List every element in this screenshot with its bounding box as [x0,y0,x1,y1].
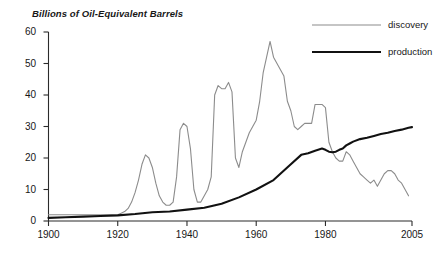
chart-plot-area [0,0,444,259]
x-axis-tick-label: 1900 [29,230,69,240]
y-axis-tick-label: 20 [10,153,36,163]
x-axis-tick-label: 1960 [236,230,276,240]
y-axis-tick-label: 50 [10,59,36,69]
y-axis-tick-label: 10 [10,185,36,195]
oil-discovery-production-chart: Billions of Oil-Equivalent Barrels 01020… [0,0,444,259]
x-axis-tick-label: 1980 [305,230,345,240]
y-axis-tick-label: 60 [10,27,36,37]
legend-label-discovery: discovery [388,20,428,30]
x-axis-tick-label: 1920 [98,230,138,240]
y-axis-tick-label: 0 [10,216,36,226]
series-line-production [49,127,413,218]
x-axis-tick-label: 1940 [167,230,207,240]
series-line-discovery [49,41,409,214]
y-axis-tick-label: 30 [10,122,36,132]
y-axis-tick-label: 40 [10,90,36,100]
legend-label-production: production [388,47,432,57]
x-axis-tick-label: 2005 [392,230,432,240]
